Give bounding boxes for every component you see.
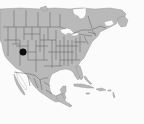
north-america-map	[0, 0, 144, 124]
occurrence-marker	[20, 49, 27, 56]
puerto-rico	[108, 90, 111, 91]
jamaica	[86, 93, 90, 94]
